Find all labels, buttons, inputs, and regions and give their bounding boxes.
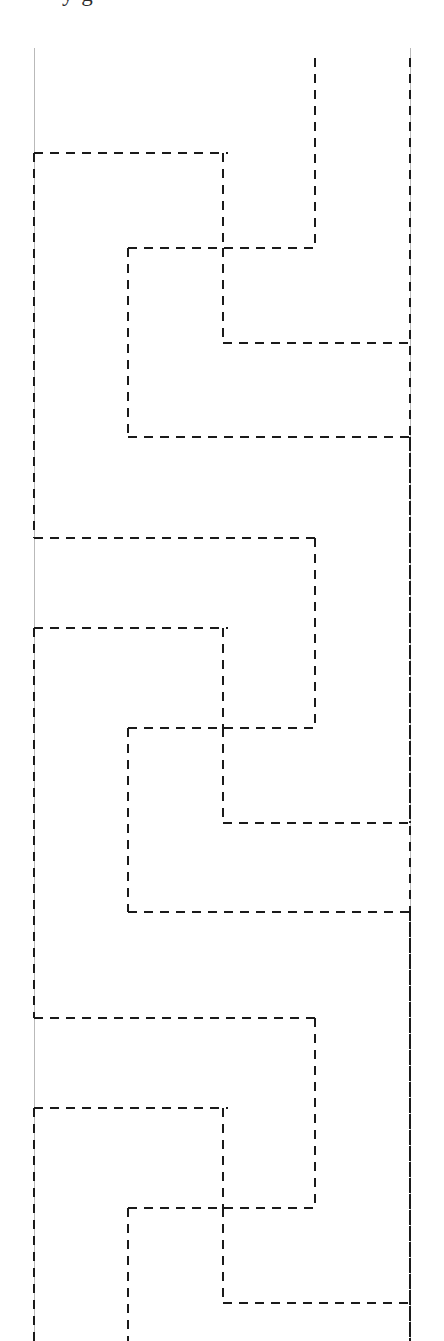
meander-diagram: [0, 0, 444, 1341]
figure-canvas: y g: [0, 0, 444, 1341]
